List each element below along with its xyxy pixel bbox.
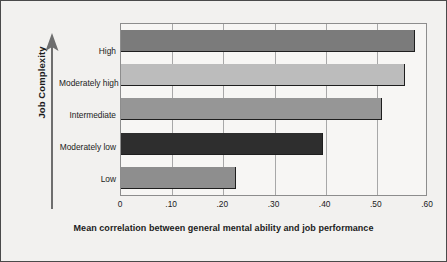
category-label-high: High (59, 47, 116, 55)
category-label-low: Low (59, 175, 116, 183)
bar-row (121, 98, 426, 120)
bar-low[interactable] (121, 167, 236, 189)
x-tick-label: .30 (268, 199, 280, 209)
x-axis-title: Mean correlation between general mental … (1, 223, 446, 233)
category-label-intermediate: Intermediate (59, 111, 116, 119)
x-tick-label: 0 (118, 199, 123, 209)
y-axis-category-labels: High Moderately high Intermediate Modera… (59, 35, 116, 195)
x-tick-label: .60 (421, 199, 433, 209)
bar-row (121, 30, 426, 52)
x-tick-label: .40 (319, 199, 331, 209)
bar-moderately-high[interactable] (121, 64, 405, 86)
bar-row (121, 64, 426, 86)
bar-moderately-low[interactable] (121, 133, 323, 155)
bar-chart-figure: Job Complexity High Moderately high Inte… (0, 0, 447, 262)
bar-row (121, 133, 426, 155)
plot-area (120, 23, 427, 196)
bar-high[interactable] (121, 30, 415, 52)
x-tick-label: .50 (370, 199, 382, 209)
category-label-moderately-low: Moderately low (59, 143, 116, 151)
bar-intermediate[interactable] (121, 98, 382, 120)
bar-series (121, 24, 426, 195)
x-tick-label: .10 (165, 199, 177, 209)
category-label-moderately-high: Moderately high (59, 79, 116, 87)
x-tick-label: .20 (217, 199, 229, 209)
bar-row (121, 167, 426, 189)
x-axis-tick-labels: 0.10.20.30.40.50.60 (120, 199, 427, 213)
up-arrow-icon (45, 33, 59, 209)
